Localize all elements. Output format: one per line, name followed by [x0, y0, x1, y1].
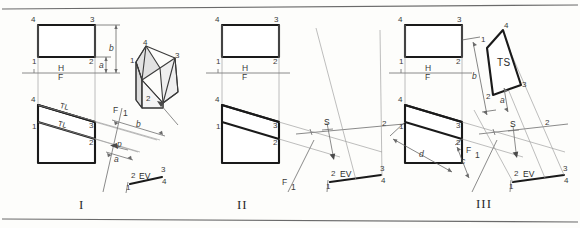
drawing-plate: 4 3 1 2 H F a b 4 3 1 2 TL TL F 1 b a p … [0, 0, 580, 228]
p3-ts-vertex-4: 4 [504, 22, 508, 30]
p2-aux-fold-label-f: F [282, 178, 287, 187]
p2-aux-vertex-3: 3 [380, 165, 384, 173]
p3-top-vertex-4: 4 [398, 16, 402, 24]
p2-aux-fold-label-1: 1 [291, 183, 296, 192]
p1-front-vertex-1: 1 [32, 123, 36, 131]
p1-top-vertex-3: 3 [90, 16, 94, 24]
p1-top-vertex-1: 1 [32, 58, 36, 66]
p1-aux-fold-label-f: F [113, 106, 118, 115]
p1-aux-dim-label-b: b [136, 120, 141, 129]
p2-sight-shaft [327, 123, 333, 155]
p1-top-view-rect [38, 25, 95, 57]
p2-sight-crossbar [322, 129, 333, 130]
p3-ts-ext-bot [482, 110, 496, 112]
p3-panel-numeral: III [476, 197, 492, 210]
p3-sight-label: S [510, 120, 516, 129]
p3-aux-fold-label-f: F [466, 146, 471, 155]
p1-top-vertex-2: 2 [89, 58, 93, 66]
p3-top-view-rect [405, 25, 462, 57]
p1-front-vertex-3: 3 [89, 122, 93, 130]
p2-sight-label: S [324, 118, 330, 127]
plate-bottom-border [2, 219, 578, 222]
p3-fold-line-f1 [472, 140, 497, 192]
panel-1-linework [22, 25, 178, 193]
p2-edge-view-label: EV [340, 170, 351, 179]
panel-3-linework [389, 25, 568, 192]
p3-front-dim-label-c: c [461, 157, 465, 166]
p2-fold-label-f: F [242, 73, 247, 82]
p3-front-dim-label-d: d [419, 150, 424, 159]
p1-aux-dim-label-a: a [114, 155, 119, 164]
p3-edge-view-label: EV [523, 170, 534, 179]
p1-panel-numeral: I [79, 198, 84, 211]
p2-aux-vertex-2: 2 [331, 170, 335, 178]
p2-fold2-tick [310, 129, 312, 135]
p2-top-vertex-4: 4 [215, 16, 219, 24]
p3-ts-vertex-1: 1 [481, 36, 485, 44]
p3-ts-vertex-2: 2 [486, 93, 490, 101]
p3-top-vertex-3: 3 [457, 16, 461, 24]
p3-ts-vertex-3: 3 [522, 81, 526, 89]
p2-top-vertex-3: 3 [274, 16, 278, 24]
p3-ts-projector-2 [474, 110, 513, 182]
p1-pictorial-vertex-4: 4 [143, 39, 147, 47]
p1-front-vertex-2: 2 [89, 139, 93, 147]
p1-dim-label-a: a [99, 61, 104, 70]
p3-edge-view-line [513, 175, 564, 182]
p3-front-vertex-2: 2 [456, 139, 460, 147]
p3-ts-dim-b-arrow-t [473, 42, 477, 46]
p1-fold-label-f: F [58, 73, 63, 82]
p3-dim-c-arrow-b [465, 174, 469, 178]
p2-front-vertex-3: 3 [273, 122, 277, 130]
p1-pictorial-vertex-3: 3 [175, 52, 179, 60]
p1-aux-vertex-1: 1 [126, 184, 130, 192]
p2-aux-vertex-1: 1 [326, 183, 330, 191]
p1-pictorial-vertex-1: 1 [130, 57, 134, 65]
p3-true-size-label: TS [497, 58, 511, 68]
p1-pictorial-leader [160, 104, 178, 125]
p3-aux-vertex-2: 2 [514, 170, 518, 178]
p2-top-view-rect [222, 25, 279, 57]
p3-ts-dim-label-a: a [500, 96, 505, 105]
p3-fold2-label: 2 [545, 119, 549, 127]
p2-panel-numeral: II [237, 198, 248, 211]
p3-ts-dim-label-b: b [472, 72, 477, 81]
p3-ts-ext-top [462, 37, 480, 40]
p1-dim-b-arrow-top [114, 25, 117, 29]
p3-aux-vertex-3: 3 [563, 165, 567, 173]
p3-front-vertex-3: 3 [456, 122, 460, 130]
p1-dim-a-arrow-top [104, 57, 107, 61]
p2-front-vertex-2: 2 [273, 139, 277, 147]
p2-sight-arrowhead [330, 153, 336, 160]
p1-aux-vertex-3: 3 [161, 166, 165, 174]
p3-fold-label-f: F [425, 73, 430, 82]
p2-second-proj-b [380, 30, 382, 176]
p1-top-vertex-4: 4 [31, 16, 35, 24]
p2-top-vertex-1: 1 [216, 58, 220, 66]
p2-aux-vertex-4: 4 [381, 177, 385, 185]
p3-aux-fold-label-1: 1 [475, 151, 480, 160]
p2-top-vertex-2: 2 [273, 58, 277, 66]
plate-linework [0, 0, 580, 228]
p3-top-vertex-2: 2 [456, 58, 460, 66]
p1-edge-view-label: EV [139, 172, 150, 181]
panel-2-linework [206, 25, 404, 192]
p1-dim-b-arrow-bot [114, 69, 117, 73]
p2-second-proj-a [316, 28, 356, 180]
p1-dim-a-arrow-bot [104, 69, 107, 73]
p2-aux-projector-3 [279, 122, 382, 152]
p3-dim-d-arrow-l [393, 139, 397, 144]
p2-front-vertex-4: 4 [215, 96, 219, 104]
p3-sight-arrowhead [513, 151, 519, 158]
p3-aux-vertex-4: 4 [564, 177, 568, 185]
p1-aux-fold-label-1: 1 [123, 109, 128, 118]
p2-fold-line-2 [296, 124, 404, 134]
p1-aux-dim-label-p: p [117, 140, 122, 149]
p3-front-vertex-4: 4 [398, 96, 402, 104]
p1-aux-vertex-2: 2 [131, 172, 135, 180]
p1-dim-label-b: b [109, 44, 114, 53]
p3-dim-d-arrow-r [448, 167, 452, 172]
p3-ts-dim-a-arrow-b [504, 108, 508, 112]
p3-front-vertex-1: 1 [399, 123, 403, 131]
p1-pictorial-vertex-2: 2 [146, 95, 150, 103]
